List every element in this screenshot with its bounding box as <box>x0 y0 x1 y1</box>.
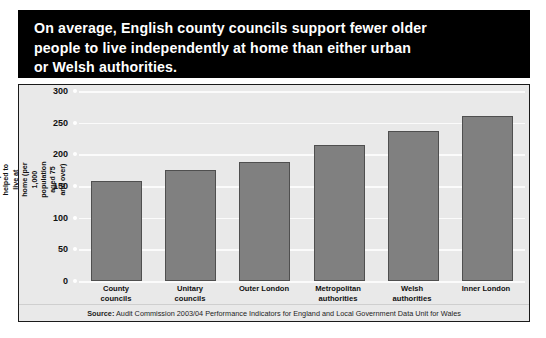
bar-slot <box>79 91 153 281</box>
figure-container: On average, English county councils supp… <box>0 0 546 338</box>
y-axis-tick-marker <box>73 184 77 188</box>
source-text: Source: Audit Commission 2003/04 Perform… <box>87 309 461 318</box>
chart-frame: People helped to live at home (per 1,000… <box>18 84 530 322</box>
y-axis-tick-label: 50 <box>58 244 68 254</box>
plot-wrapper: 050100150200250300 <box>43 91 525 281</box>
bar-series <box>79 91 525 281</box>
y-axis-tick-label: 200 <box>53 149 68 159</box>
y-axis-tick-marker <box>73 152 77 156</box>
bar-slot <box>153 91 227 281</box>
y-axis-tick-marker <box>73 216 77 220</box>
source-body: Audit Commission 2003/04 Performance Ind… <box>114 309 461 318</box>
bar-slot <box>451 91 525 281</box>
bar <box>388 131 439 281</box>
bar-slot <box>376 91 450 281</box>
y-axis-ticks: 050100150200250300 <box>43 91 71 281</box>
title-banner: On average, English county councils supp… <box>18 10 530 78</box>
y-axis-tick-marker <box>73 247 77 251</box>
bar-slot <box>302 91 376 281</box>
bar <box>314 145 365 281</box>
source-note: Source: Audit Commission 2003/04 Perform… <box>19 304 529 321</box>
page-title: On average, English county councils supp… <box>34 19 514 78</box>
y-axis-tick-label: 100 <box>53 213 68 223</box>
bar <box>165 170 216 281</box>
y-axis-tick-label: 250 <box>53 118 68 128</box>
y-axis-tick-label: 150 <box>53 181 68 191</box>
bar <box>462 116 513 281</box>
source-label: Source: <box>87 309 114 318</box>
bar <box>91 181 142 281</box>
y-axis-tick-label: 300 <box>53 86 68 96</box>
plot-area <box>79 91 525 281</box>
y-axis-tick-marker <box>73 279 77 283</box>
y-axis-tick-label: 0 <box>63 276 68 286</box>
y-axis-title: People helped to live at home (per 1,000… <box>19 85 41 275</box>
y-axis-tick-marker <box>73 121 77 125</box>
y-axis-tick-marker <box>73 89 77 93</box>
bar <box>239 162 290 281</box>
bar-slot <box>228 91 302 281</box>
